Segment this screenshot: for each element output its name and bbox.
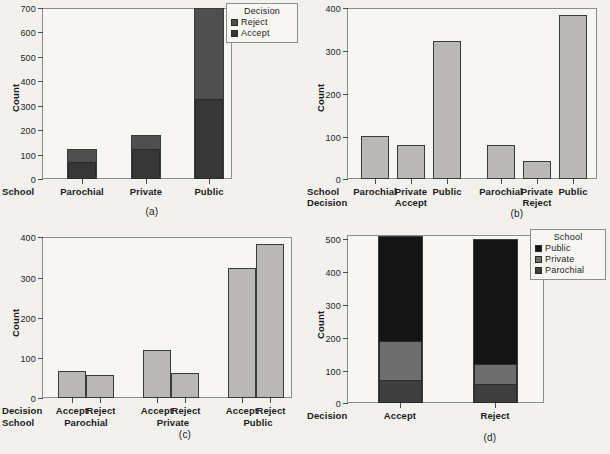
legend-row-private: Private: [535, 254, 601, 265]
panel-c-ytick-200: 200: [8, 314, 36, 324]
panel-c-ytick-100: 100: [8, 354, 36, 364]
segment-accept: [68, 162, 96, 179]
legend-row-public: Public: [535, 243, 601, 254]
legend-label-public: Public: [545, 243, 571, 254]
panel-b-axis-name-decision: Decision: [307, 197, 347, 208]
bar-parochial-accept: [58, 371, 86, 398]
panel-c-grouplabel-parochial: Parochial: [58, 417, 114, 428]
panel-a-ytick-700: 700: [8, 4, 36, 14]
panel-a-xlabel-parochial: Parochial: [52, 186, 112, 197]
segment-parochial: [379, 380, 422, 403]
panel-b-caption: (b): [487, 208, 547, 219]
panel-b-ytick-0: 0: [313, 175, 341, 185]
panel-d: Count 0 100 200 300 400 500 Decision Acc…: [305, 227, 610, 454]
panel-a-legend: Decision Reject Accept: [226, 3, 298, 43]
segment-parochial: [474, 384, 517, 403]
legend-swatch-accept: [231, 30, 238, 37]
legend-row-reject: Reject: [231, 17, 293, 28]
panel-a-ytick-500: 500: [8, 53, 36, 63]
panel-a-caption: (a): [122, 206, 182, 217]
bar-parochial: [67, 149, 97, 179]
panel-d-ytick-500: 500: [313, 235, 341, 245]
panel-d-ytick-400: 400: [313, 268, 341, 278]
bar-reject-public: [559, 15, 587, 179]
panel-d-xlabel-reject: Reject: [465, 410, 525, 421]
bar-accept-public: [433, 41, 461, 179]
segment-private: [474, 364, 517, 385]
panel-c-xlabel-reject-parochial: Reject: [79, 405, 123, 416]
legend-row-parochial: Parochial: [535, 265, 601, 276]
panel-a-ytick-300: 300: [8, 102, 36, 112]
bar-accept-private: [397, 145, 425, 179]
bar-private-accept: [143, 350, 171, 398]
panel-a-ytick-100: 100: [8, 151, 36, 161]
panel-b: Count 0 100 200 300 400 School Decision …: [305, 0, 610, 227]
bar-accept-parochial: [361, 136, 389, 179]
panel-d-legend: School Public Private Parochial: [530, 229, 606, 280]
bar-private-reject: [171, 373, 199, 398]
panel-d-ytick-100: 100: [313, 367, 341, 377]
panel-c-axis-name-decision: Decision: [2, 405, 42, 416]
panel-c-ytick-400: 400: [8, 233, 36, 243]
bar-reject-private: [523, 161, 551, 179]
panel-b-axis-name-school: School: [307, 186, 339, 197]
legend-swatch-reject: [231, 19, 238, 26]
bar-public: [194, 8, 224, 179]
legend-swatch-public: [535, 245, 542, 252]
stacked-bar-reject: [473, 239, 518, 403]
segment-accept: [132, 149, 160, 179]
panel-a-xlabel-public: Public: [179, 186, 239, 197]
segment-accept: [195, 99, 223, 179]
bar-public-reject: [256, 244, 284, 398]
panel-b-ytick-100: 100: [313, 133, 341, 143]
legend-swatch-private: [535, 256, 542, 263]
panel-a-ytick-600: 600: [8, 28, 36, 38]
legend-title-school: School: [535, 232, 601, 242]
panel-a-axis-name-school: School: [2, 186, 34, 197]
panel-d-ytick-0: 0: [313, 399, 341, 409]
panel-d-xlabel-accept: Accept: [370, 410, 430, 421]
panel-b-grouplabel-accept: Accept: [385, 197, 437, 208]
panel-c-ytick-0: 0: [8, 394, 36, 404]
panel-c: Count 0 100 200 300 400 Decision School …: [0, 227, 305, 454]
panel-b-xlabel-public-accept: Public: [424, 186, 470, 197]
panel-b-ytick-200: 200: [313, 90, 341, 100]
panel-a-ytick-200: 200: [8, 126, 36, 136]
panel-a: Count 0 100 200 300 400 500 600 700: [0, 0, 305, 227]
legend-label-accept: Accept: [241, 28, 270, 39]
panel-c-xlabel-reject-public: Reject: [249, 405, 293, 416]
legend-swatch-parochial: [535, 267, 542, 274]
stacked-bar-accept: [378, 236, 423, 403]
bar-reject-parochial: [487, 145, 515, 179]
panel-c-caption: (c): [155, 429, 215, 440]
panel-a-ytick-0: 0: [8, 175, 36, 185]
legend-row-accept: Accept: [231, 28, 293, 39]
segment-private: [379, 341, 422, 381]
panel-d-ytick-200: 200: [313, 334, 341, 344]
panel-d-axis-name-decision: Decision: [307, 410, 347, 421]
bar-private: [131, 135, 161, 179]
panel-c-grouplabel-private: Private: [147, 417, 199, 428]
bar-public-accept: [228, 268, 256, 398]
bar-parochial-reject: [86, 375, 114, 398]
panel-c-grouplabel-public: Public: [233, 417, 283, 428]
legend-label-parochial: Parochial: [545, 265, 584, 276]
panel-b-grouplabel-reject: Reject: [511, 197, 563, 208]
panel-b-ytick-400: 400: [313, 4, 341, 14]
legend-label-reject: Reject: [241, 17, 268, 28]
panel-a-xlabel-private: Private: [116, 186, 176, 197]
legend-title-decision: Decision: [231, 6, 293, 16]
panel-c-xlabel-reject-private: Reject: [164, 405, 208, 416]
panel-b-xlabel-public-reject: Public: [550, 186, 596, 197]
panel-b-ytick-300: 300: [313, 47, 341, 57]
legend-label-private: Private: [545, 254, 574, 265]
panel-d-caption: (d): [460, 432, 520, 443]
figure-grid: Count 0 100 200 300 400 500 600 700: [0, 0, 610, 454]
panel-a-ytick-400: 400: [8, 77, 36, 87]
panel-d-ytick-300: 300: [313, 301, 341, 311]
panel-c-axis-name-school: School: [2, 417, 34, 428]
panel-c-ytick-300: 300: [8, 274, 36, 284]
